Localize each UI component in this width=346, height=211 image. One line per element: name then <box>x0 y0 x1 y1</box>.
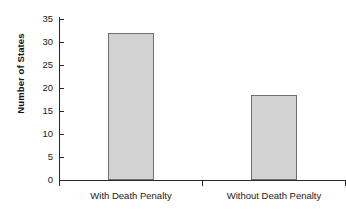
x-axis-category-label: Without Death Penalty <box>199 190 346 201</box>
y-axis-tick <box>59 42 64 43</box>
y-axis-tick-label: 15 <box>26 106 53 116</box>
x-axis-category-label: With Death Penalty <box>56 190 206 201</box>
bar <box>251 95 297 180</box>
y-axis-tick-label: 20 <box>26 83 53 93</box>
y-axis-tick-label: 30 <box>26 37 53 47</box>
x-axis-tick <box>59 181 60 186</box>
y-axis-tick-label: 10 <box>26 129 53 139</box>
y-axis-tick <box>59 111 64 112</box>
bar <box>108 33 154 180</box>
y-axis-tick <box>59 65 64 66</box>
y-axis-title: Number of States <box>15 19 26 129</box>
y-axis-tick <box>59 88 64 89</box>
y-axis-tick <box>59 134 64 135</box>
y-axis-tick-label: 5 <box>26 152 53 162</box>
y-axis-tick <box>59 19 64 20</box>
y-axis-tick-label: 25 <box>26 60 53 70</box>
x-axis-tick <box>202 181 203 186</box>
bar-chart: Number of States 05101520253035 With Dea… <box>0 0 346 211</box>
y-axis-tick-label: 35 <box>26 14 53 24</box>
y-axis-tick <box>59 157 64 158</box>
y-axis-tick-label: 0 <box>26 175 53 185</box>
